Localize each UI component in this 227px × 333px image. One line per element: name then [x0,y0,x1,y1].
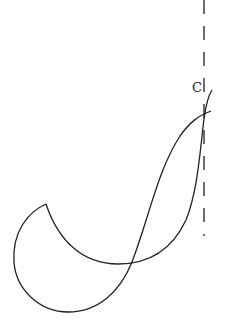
curve-outer-branch [14,111,211,312]
curve-inner-branch [46,90,212,264]
point-c-label: C [192,80,202,95]
curve-diagram [0,0,227,333]
